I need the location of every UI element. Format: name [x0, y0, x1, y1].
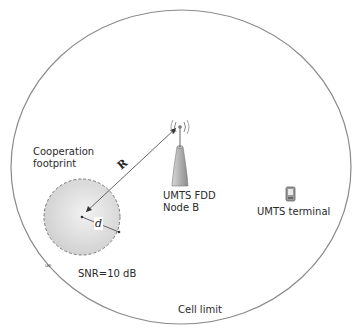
cooperation-footprint-label-2: footprint	[33, 158, 76, 170]
node-b-label-1: UMTS FDD	[163, 190, 216, 202]
edge-tag-label: ue	[45, 262, 51, 268]
node-b-label-2: Node B	[163, 202, 199, 214]
terminal-label: UMTS terminal	[257, 206, 330, 218]
mobile-terminal-icon	[286, 187, 295, 201]
cell-diagram: Cooperation footprint UMTS FDD Node B UM…	[0, 0, 358, 333]
cooperation-footprint-label-1: Cooperation	[33, 146, 94, 158]
snr-label: SNR=10 dB	[78, 268, 136, 280]
cell-limit-label: Cell limit	[178, 304, 222, 316]
radius-d-label: d	[94, 217, 103, 230]
